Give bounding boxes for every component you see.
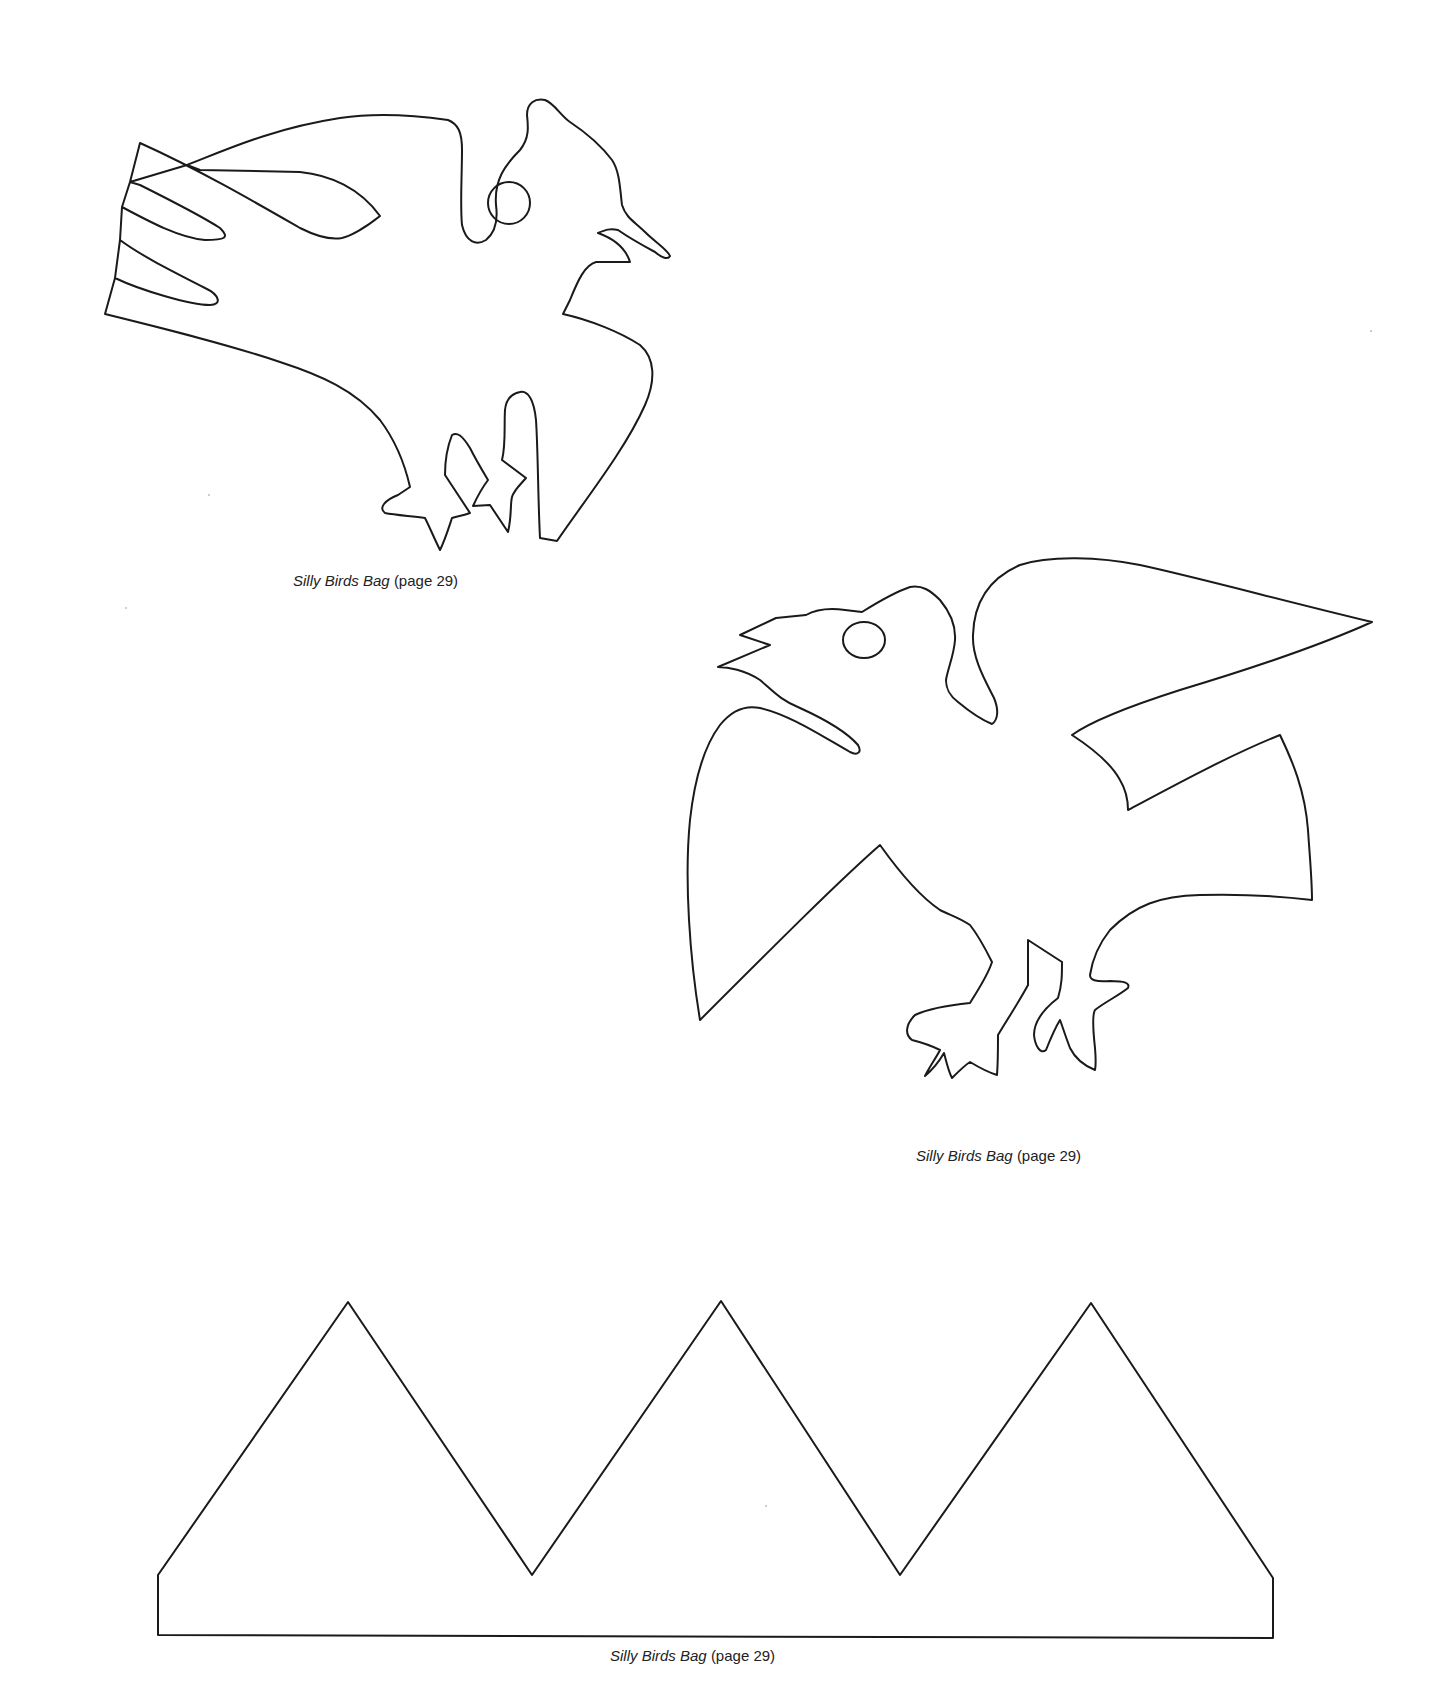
- scan-speck: [208, 494, 210, 496]
- template-drawings: [0, 0, 1449, 1695]
- bird-2-caption-page-ref: (page 29): [1017, 1147, 1081, 1164]
- bird-1-caption-page-ref: (page 29): [394, 572, 458, 589]
- crown-band-caption-title: Silly Birds Bag: [610, 1647, 707, 1664]
- bird-2-caption-title: Silly Birds Bag: [916, 1147, 1013, 1164]
- bird-1-body-outline: [105, 100, 670, 550]
- bird-1-caption-title: Silly Birds Bag: [293, 572, 390, 589]
- scan-speck: [765, 1505, 767, 1507]
- crown-band-outline: [158, 1301, 1273, 1638]
- bird-2-caption: Silly Birds Bag (page 29): [916, 1147, 1081, 1165]
- bird-2-eye: [843, 622, 885, 658]
- bird-2-body-outline: [688, 558, 1372, 1078]
- bird-1-outline: [105, 100, 670, 550]
- bird-1-caption: Silly Birds Bag (page 29): [293, 572, 458, 590]
- bird-1-eye: [488, 182, 530, 224]
- scan-speck: [125, 607, 127, 609]
- crown-band-caption-page-ref: (page 29): [711, 1647, 775, 1664]
- template-page: Silly Birds Bag (page 29) Silly Birds Ba…: [0, 0, 1449, 1695]
- scan-speck: [1370, 330, 1372, 332]
- bird-2-outline: [688, 558, 1372, 1078]
- crown-band-caption: Silly Birds Bag (page 29): [610, 1647, 775, 1665]
